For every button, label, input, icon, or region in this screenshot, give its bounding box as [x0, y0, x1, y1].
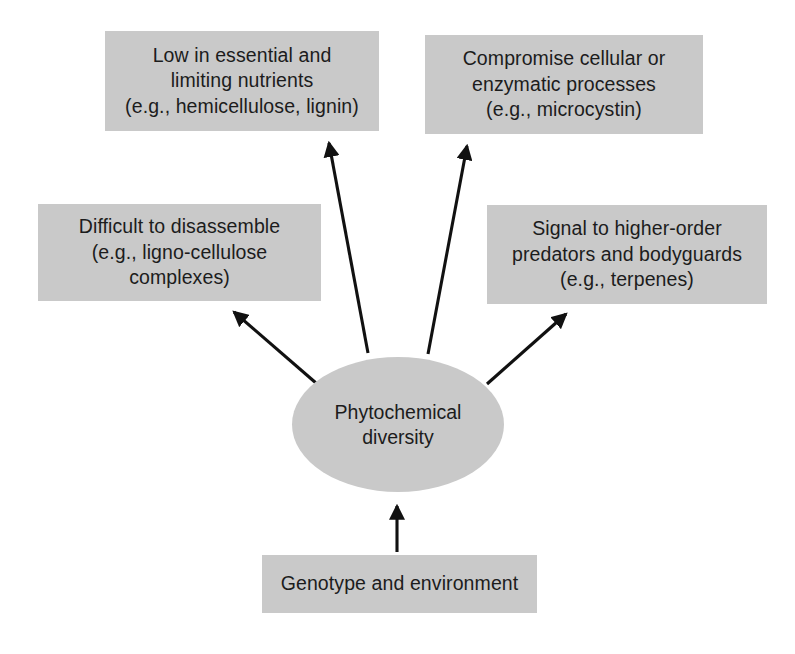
arrow-to-enzymatic — [428, 146, 467, 354]
node-low-in-nutrients-label: Low in essential and limiting nutrients … — [125, 43, 359, 119]
arrow-to-disassemble — [234, 312, 316, 383]
node-difficult-to-disassemble-label: Difficult to disassemble (e.g., ligno-ce… — [79, 214, 280, 290]
node-compromise-enzymatic-processes-label: Compromise cellular or enzymatic process… — [463, 46, 666, 122]
node-difficult-to-disassemble[interactable]: Difficult to disassemble (e.g., ligno-ce… — [38, 204, 321, 301]
node-signal-to-predators-label: Signal to higher-order predators and bod… — [512, 216, 742, 292]
node-low-in-nutrients[interactable]: Low in essential and limiting nutrients … — [105, 31, 379, 131]
diagram-canvas: Low in essential and limiting nutrients … — [0, 0, 795, 654]
arrow-to-nutrients — [329, 143, 368, 353]
node-phytochemical-diversity[interactable]: Phytochemical diversity — [292, 357, 504, 492]
arrow-to-signal — [487, 314, 566, 384]
node-genotype-and-environment-label: Genotype and environment — [281, 571, 519, 596]
node-compromise-enzymatic-processes[interactable]: Compromise cellular or enzymatic process… — [425, 35, 703, 134]
node-phytochemical-diversity-label: Phytochemical diversity — [335, 400, 462, 450]
node-genotype-and-environment[interactable]: Genotype and environment — [262, 555, 537, 613]
node-signal-to-predators[interactable]: Signal to higher-order predators and bod… — [487, 205, 767, 304]
